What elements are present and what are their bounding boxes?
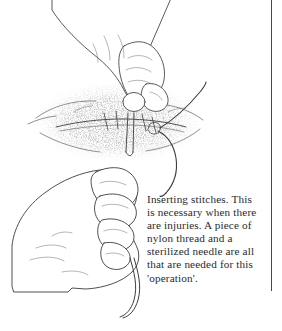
book-page: Inserting stitches. This is necessary wh…: [0, 0, 282, 331]
figure-caption: Inserting stitches. This is necessary wh…: [147, 193, 259, 285]
column-divider: [271, 0, 272, 291]
wound-stipple-shading: [34, 82, 202, 162]
